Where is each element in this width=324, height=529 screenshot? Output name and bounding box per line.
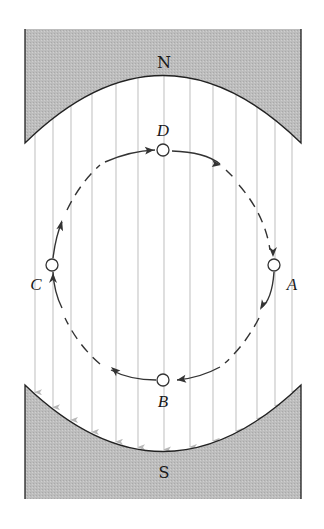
point-d-circle [157, 144, 169, 156]
point-a-circle [268, 259, 280, 271]
arrow-icon [56, 219, 65, 231]
arrow-icon [269, 247, 277, 257]
orbit-arrowheads [49, 146, 277, 384]
north-pole-label: N [157, 53, 171, 72]
arrow-icon [109, 367, 121, 377]
magnetic-field-diagram: N S [0, 0, 324, 529]
point-c-circle [46, 259, 58, 271]
orbit-points [46, 144, 280, 386]
point-label-d: D [156, 121, 170, 140]
point-label-c: C [30, 275, 42, 294]
point-b-circle [157, 374, 169, 386]
south-pole-label: S [159, 463, 170, 482]
point-label-a: A [286, 275, 298, 294]
point-label-b: B [158, 392, 169, 411]
